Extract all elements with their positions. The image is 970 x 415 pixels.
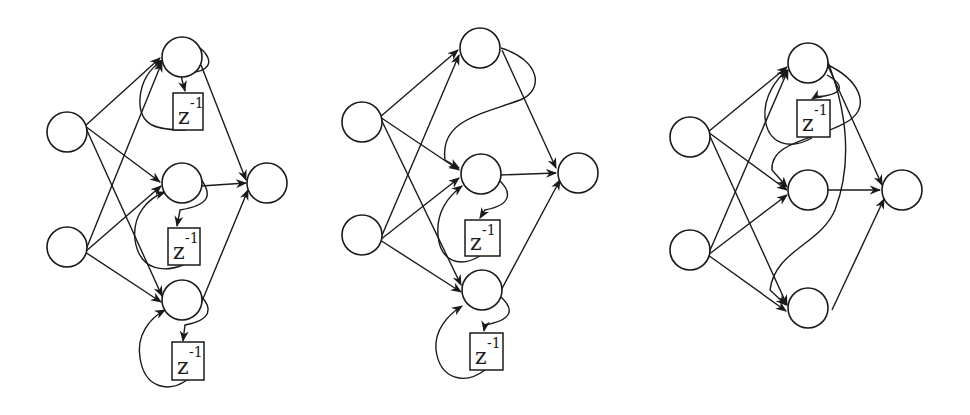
input-node-1 <box>342 102 382 142</box>
delay-exponent: -1 <box>185 230 199 246</box>
hidden-node-2 <box>461 154 501 194</box>
hidden-node-3 <box>788 288 828 328</box>
delay-exponent: -1 <box>190 95 204 111</box>
delay-label: z <box>177 354 189 379</box>
hidden-node-1 <box>460 28 500 68</box>
delay-block: z-1 <box>172 342 204 380</box>
input-node-2 <box>342 215 382 255</box>
diagram-2: z-1z-1 <box>342 28 598 378</box>
connection-arrow <box>380 117 461 285</box>
connection-arrow <box>380 240 461 292</box>
output-node <box>882 170 922 210</box>
output-node <box>247 163 287 203</box>
input-node-2 <box>670 230 710 270</box>
input-node-1 <box>670 117 710 157</box>
delay-exponent: -1 <box>482 222 496 238</box>
connection-arrow <box>380 178 459 240</box>
hidden-node-3 <box>162 280 202 320</box>
hidden-node-2 <box>788 170 828 210</box>
rnn-topologies-figure: z-1z-1z-1z-1z-1z-1 <box>0 0 970 415</box>
diagram-1: z-1z-1z-1 <box>47 37 287 387</box>
delay-label: z <box>470 230 482 255</box>
connection-arrow <box>201 65 246 180</box>
delay-block: z-1 <box>168 228 200 265</box>
delay-block: z-1 <box>470 333 503 370</box>
delay-label: z <box>475 344 487 369</box>
connection-arrow <box>708 255 786 311</box>
connection-arrow <box>200 190 248 306</box>
output-node <box>558 153 598 193</box>
connection-arrow <box>85 186 161 252</box>
connection-arrow <box>85 126 160 182</box>
connection-arrow <box>708 132 787 190</box>
connection-arrow <box>502 50 556 168</box>
delay-label: z <box>802 111 814 136</box>
connection-arrow <box>85 58 160 126</box>
connection-arrow <box>201 183 246 186</box>
input-node-2 <box>47 227 87 267</box>
delay-block: z-1 <box>465 220 500 256</box>
connection-arrow <box>708 195 787 255</box>
delay-exponent: -1 <box>487 335 501 351</box>
connection-arrow <box>500 173 556 175</box>
hidden-node-2 <box>162 163 202 203</box>
connection-arrow <box>832 199 884 310</box>
connection-arrow <box>85 252 161 302</box>
connection-arrow <box>708 70 788 255</box>
hidden-node-1 <box>788 43 828 83</box>
hidden-node-1 <box>162 37 202 77</box>
delay-label: z <box>178 104 190 129</box>
diagram-3: z-1 <box>670 43 922 328</box>
connection-arrow <box>85 126 162 296</box>
input-node-1 <box>47 112 87 152</box>
delay-label: z <box>173 239 185 264</box>
delay-exponent: -1 <box>814 102 828 118</box>
delay-block: z-1 <box>173 93 204 130</box>
delay-exponent: -1 <box>189 344 203 360</box>
delay-block: z-1 <box>797 100 830 137</box>
hidden-node-3 <box>462 270 502 310</box>
connection-arrow <box>380 117 459 170</box>
